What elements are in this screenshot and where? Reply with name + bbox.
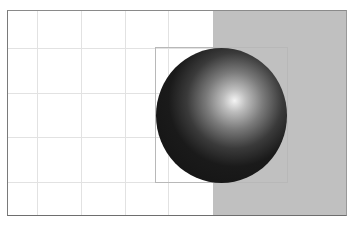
grid-line <box>81 11 82 215</box>
sphere-object[interactable] <box>156 48 287 183</box>
grid-line <box>125 11 126 215</box>
grid-line <box>37 11 38 215</box>
drawing-canvas[interactable] <box>7 10 347 216</box>
